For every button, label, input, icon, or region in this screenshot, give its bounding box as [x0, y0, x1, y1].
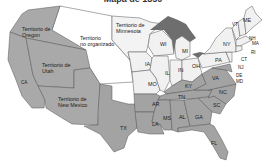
label-sc: SC [213, 102, 221, 108]
label-md: MD [236, 79, 244, 84]
label-il: IL [165, 70, 170, 76]
region-new-york [204, 28, 236, 54]
label-ri: RI [251, 50, 256, 55]
label-tx: TX [120, 125, 127, 131]
label-al: AL [179, 114, 186, 120]
label-va: VA [212, 75, 219, 81]
label-ca: CA [21, 80, 28, 85]
label-unorganized-line2: no organizado [80, 41, 114, 47]
label-pa: PA [215, 57, 222, 63]
label-wi: WI [160, 41, 167, 47]
label-ct: CT [241, 57, 247, 62]
label-mo: MO [148, 81, 157, 87]
label-oregon-line2: Oregon [22, 32, 40, 38]
label-mi: MI [182, 48, 188, 54]
us-map-1850: Territorio deOregon Territoriono organiz… [0, 0, 266, 168]
label-me: ME [243, 17, 251, 23]
region-connecticut [236, 46, 242, 52]
label-ky: KY [185, 83, 193, 89]
svg-text:Territorio deNew Mexico: Territorio deNew Mexico [58, 96, 87, 108]
label-utah-line2: Utah [42, 68, 53, 74]
label-ga: GA [195, 114, 203, 120]
label-ms: MS [163, 115, 171, 121]
label-fl: FL [211, 140, 217, 146]
label-in: IN [178, 67, 183, 73]
label-minnesota-line2: Minnesota [116, 28, 141, 34]
label-vt: VT [232, 22, 238, 27]
region-florida [178, 124, 228, 160]
label-tn: TN [178, 94, 185, 100]
label-ia: IA [145, 61, 150, 67]
label-de: DE [236, 73, 242, 78]
label-ma: MA [252, 41, 260, 46]
label-ny: NY [223, 41, 231, 47]
label-ar: AR [152, 101, 160, 107]
label-nj: NJ [238, 65, 244, 70]
label-la: LA [152, 121, 159, 127]
label-oh: OH [192, 63, 200, 69]
svg-text:Territorio deMinnesota: Territorio deMinnesota [116, 22, 144, 34]
label-new-mexico-line2: New Mexico [58, 102, 87, 108]
label-nc: NC [219, 89, 227, 95]
